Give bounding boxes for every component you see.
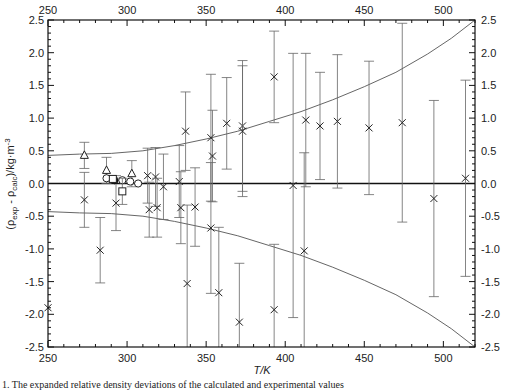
y-axis-title-close: )/kg·m	[4, 145, 16, 176]
data-point-cross	[151, 148, 161, 207]
triangle-marker	[103, 166, 111, 174]
data-point-cross	[299, 153, 309, 347]
y-axis-title-open: (ρ	[4, 220, 16, 230]
data-point-cross	[269, 31, 279, 123]
y-axis-title-mid: - ρ	[4, 191, 16, 207]
y-tick-label-left: 0.5	[29, 145, 44, 157]
data-point-cross	[461, 80, 471, 276]
y-tick-label-right: -1.0	[481, 243, 500, 255]
y-tick-label-right: -1.5	[481, 276, 500, 288]
circle-marker	[135, 180, 142, 187]
y-axis-title-sub-exp: exp	[10, 206, 19, 219]
y-tick-label-left: 2.5	[29, 14, 44, 26]
y-axis-title-sub-calc: calc	[10, 177, 19, 191]
y-tick-label-right: 0.5	[481, 145, 496, 157]
y-tick-label-right: -0.5	[481, 210, 500, 222]
data-point-cross	[190, 168, 200, 246]
y-tick-label-left: -2.5	[25, 341, 44, 353]
data-point-cross	[234, 263, 244, 347]
circle-marker	[127, 178, 134, 185]
x-tick-label-bottom: 450	[355, 352, 373, 364]
uncertainty-curve-upper	[48, 20, 475, 155]
data-point-cross	[207, 110, 217, 202]
y-tick-label-right: -2.5	[481, 341, 500, 353]
y-tick-label-right: 0.0	[481, 178, 496, 190]
x-tick-label-top: 300	[118, 4, 136, 16]
triangle-marker	[80, 151, 88, 159]
data-point-cross	[364, 61, 374, 194]
data-point-cross	[176, 172, 186, 244]
x-tick-label-bottom: 400	[276, 352, 294, 364]
y-tick-label-right: 2.5	[481, 14, 496, 26]
y-tick-label-right: 1.5	[481, 79, 496, 91]
data-point-cross	[269, 244, 279, 347]
uncertainty-curve-lower	[48, 212, 475, 347]
data-point-square	[109, 175, 116, 182]
y-tick-label-left: -2.0	[25, 308, 44, 320]
y-tick-label-right: 1.0	[481, 112, 496, 124]
data-point-cross	[332, 55, 342, 188]
x-tick-label-top: 350	[197, 4, 215, 16]
data-point-cross	[181, 92, 191, 170]
data-point-cross	[95, 218, 105, 283]
data-point-cross	[182, 205, 192, 347]
y-tick-label-left: 0.0	[29, 178, 44, 190]
data-points	[45, 23, 471, 347]
data-point-circle	[135, 180, 142, 187]
x-tick-label-top: 400	[276, 4, 294, 16]
data-point-cross	[222, 78, 232, 170]
x-tick-label-bottom: 300	[118, 352, 136, 364]
y-tick-label-right: -2.0	[481, 308, 500, 320]
data-point-cross	[144, 182, 154, 237]
data-point-cross	[301, 53, 311, 186]
data-point-cross	[288, 53, 298, 317]
data-point-cross	[315, 72, 325, 179]
data-point-cross	[158, 154, 168, 219]
data-point-cross	[214, 227, 224, 347]
x-tick-label-bottom: 350	[197, 352, 215, 364]
data-point-cross	[79, 172, 89, 227]
x-tick-label-top: 500	[434, 4, 452, 16]
data-point-cross	[397, 23, 407, 222]
x-tick-label-top: 450	[355, 4, 373, 16]
y-tick-label-left: 2.0	[29, 47, 44, 59]
data-point-circle	[127, 178, 134, 185]
data-point-cross	[152, 178, 162, 237]
chart: 250250300300350350400400450450500500-2.5…	[0, 0, 508, 390]
y-tick-label-left: -1.5	[25, 276, 44, 288]
x-tick-label-bottom: 500	[434, 352, 452, 364]
data-point-cross	[143, 148, 153, 203]
data-point-cross	[429, 100, 439, 296]
y-tick-label-left: 1.5	[29, 79, 44, 91]
y-tick-label-right: 2.0	[481, 47, 496, 59]
y-axis-title: (ρexp - ρcalc)/kg·m-3	[3, 138, 19, 230]
y-tick-label-left: -0.5	[25, 210, 44, 222]
y-tick-label-left: 1.0	[29, 112, 44, 124]
square-marker	[109, 175, 116, 182]
x-tick-label-bottom: 250	[39, 352, 57, 364]
y-axis-title-sup: -3	[3, 138, 12, 146]
figure-caption: 1. The expanded relative density deviati…	[2, 379, 344, 390]
data-point-triangle	[79, 142, 89, 168]
y-tick-label-left: -1.0	[25, 243, 44, 255]
square-marker	[119, 188, 126, 195]
x-axis-title: T/K	[253, 364, 271, 376]
triangle-marker	[128, 169, 136, 177]
